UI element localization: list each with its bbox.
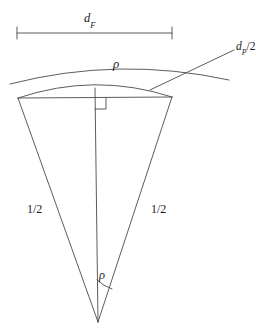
label-rho-apex: ρ [99,269,105,282]
label-dp2-subscript: P [242,48,247,57]
center-axis [95,88,98,322]
label-df-subscript: F [90,20,95,30]
label-width-dimension: dF [84,12,95,27]
label-dp2-base: d [236,40,242,52]
label-slant-left: 1/2 [27,203,42,215]
label-slant-right: 1/2 [151,203,166,215]
outer-arc [10,69,229,84]
label-rho-arc: ρ [113,57,119,70]
right-angle-marker [95,98,106,109]
diagram-canvas [0,0,270,335]
cone-geometry-diagram: dF dP/2 ρ ρ 1/2 1/2 [0,0,270,335]
label-dp2-suffix: /2 [247,40,256,52]
label-pitch-half: dP/2 [236,41,255,55]
